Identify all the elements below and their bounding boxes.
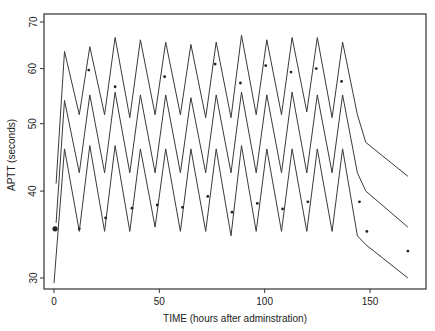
data-point (156, 204, 159, 207)
y-axis-label: APTT (seconds) (6, 119, 17, 191)
data-point (315, 67, 318, 70)
x-tick-label: 100 (256, 296, 273, 307)
x-axis: 050100150 (51, 289, 379, 307)
data-point (87, 69, 90, 72)
y-tick-label: 40 (28, 185, 39, 197)
x-tick-label: 0 (51, 296, 57, 307)
data-point (365, 230, 368, 233)
data-point (264, 64, 267, 67)
data-point (181, 206, 184, 209)
y-tick-label: 70 (28, 16, 39, 28)
data-point (340, 80, 343, 83)
data-point (256, 202, 259, 205)
x-tick-label: 50 (154, 296, 166, 307)
data-point (163, 75, 166, 78)
series-group (54, 35, 408, 283)
y-axis: 3040506070 (28, 16, 45, 284)
data-point (231, 211, 234, 214)
data-point (290, 71, 293, 74)
data-point (281, 208, 284, 211)
data-point (239, 82, 242, 85)
chart: 3040506070 050100150 TIME (hours after a… (0, 0, 435, 331)
series-line (54, 146, 408, 284)
y-tick-label: 60 (28, 63, 39, 75)
data-point (114, 85, 117, 88)
data-point (52, 226, 57, 231)
y-tick-label: 30 (28, 272, 39, 284)
y-tick-label: 50 (28, 118, 39, 130)
data-point (206, 195, 209, 198)
plot-frame (44, 14, 426, 289)
data-point (306, 200, 309, 203)
x-axis-label: TIME (hours after adminstration) (163, 313, 307, 324)
x-tick-label: 150 (362, 296, 379, 307)
data-point (358, 200, 361, 203)
data-point (104, 217, 107, 220)
data-point (131, 207, 134, 210)
data-point (78, 227, 81, 230)
data-point (214, 63, 217, 66)
data-point (407, 250, 410, 253)
